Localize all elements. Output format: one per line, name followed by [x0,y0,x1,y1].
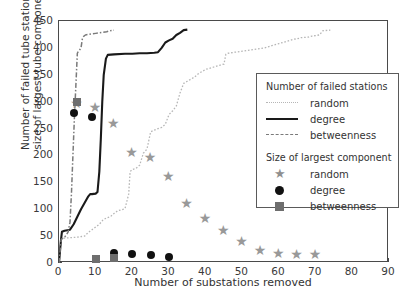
marker-star-random: ★ [144,150,157,164]
chart-legend: Number of failed stations random degree … [256,73,399,208]
y-tick-400: 400 [19,42,53,52]
y-tick-200: 200 [19,149,53,159]
marker-star-random: ★ [309,247,322,261]
x-tick-20: 20 [116,266,146,276]
marker-star-random: ★ [290,247,303,261]
marker-circle-degree [165,253,173,261]
y-tick-350: 350 [19,69,53,79]
circle-marker-key [266,182,300,198]
dotted-line-key [266,95,300,111]
marker-star-random: ★ [235,234,248,248]
y-tick-450: 450 [19,15,53,25]
legend-label-betweenness-line: betweenness [310,130,376,141]
x-tick-50: 50 [226,266,256,276]
marker-star-random: ★ [180,196,193,210]
legend-item-random-marker[interactable]: ★ random [266,166,398,182]
series-line-degree [59,30,187,263]
x-tick-70: 70 [300,266,330,276]
x-tick-0: 0 [43,266,73,276]
x-tick-80: 80 [336,266,366,276]
dashdot-line-key [266,127,300,143]
marker-star-random: ★ [125,145,138,159]
y-tick-100: 100 [19,203,53,213]
legend-item-betweenness-line[interactable]: betweenness [266,127,398,143]
legend-label-random-line: random [310,98,349,109]
legend-label-degree-line: degree [310,114,345,125]
marker-star-random: ★ [254,243,267,257]
marker-star-random: ★ [217,223,230,237]
y-tick-150: 150 [19,176,53,186]
marker-square-betweenness [110,254,118,262]
square-marker-key [266,198,300,214]
legend-label-betweenness-marker: betweenness [310,201,376,212]
marker-star-random: ★ [272,246,285,260]
legend-label-random-marker: random [310,169,349,180]
marker-star-random: ★ [162,169,175,183]
marker-star-random: ★ [89,100,102,114]
legend-section-title-largest-component: Size of largest component [266,152,398,163]
legend-item-betweenness-marker[interactable]: betweenness [266,198,398,214]
legend-item-random-line[interactable]: random [266,95,398,111]
x-tick-90: 90 [373,266,403,276]
solid-line-key [266,111,300,127]
marker-circle-degree [147,251,155,259]
marker-star-random: ★ [199,211,212,225]
x-tick-10: 10 [80,266,110,276]
star-marker-key: ★ [266,166,300,182]
legend-label-degree-marker: degree [310,185,345,196]
legend-section-title-failed-stations: Number of failed stations [266,81,398,92]
marker-square-betweenness [92,255,100,263]
y-tick-300: 300 [19,96,53,106]
x-tick-60: 60 [263,266,293,276]
chart-figure: Number of failed tube stations/ size of … [0,0,408,305]
marker-square-betweenness [73,98,81,106]
y-tick-50: 50 [19,230,53,240]
x-axis-label: Number of substations removed [58,276,388,289]
y-tick-250: 250 [19,123,53,133]
legend-item-degree-marker[interactable]: degree [266,182,398,198]
x-tick-40: 40 [190,266,220,276]
marker-star-random: ★ [107,116,120,130]
marker-circle-degree [88,113,96,121]
legend-item-degree-line[interactable]: degree [266,111,398,127]
x-tick-30: 30 [153,266,183,276]
